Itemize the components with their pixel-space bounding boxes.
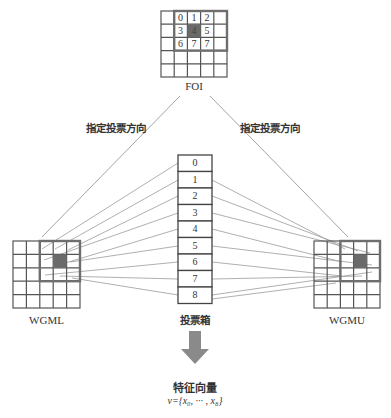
vote-box-label: 投票箱	[165, 312, 225, 327]
vote-bin-7: 7	[178, 271, 212, 288]
direction-label-right: 指定投票方向	[240, 120, 300, 135]
foi-value-2: 2	[201, 11, 214, 24]
wgml-center-cell	[53, 254, 66, 267]
vote-bin-4: 4	[178, 221, 212, 238]
direction-label-left: 指定投票方向	[86, 120, 146, 135]
vote-bin-6: 6	[178, 254, 212, 271]
wgmu-label: WGMU	[314, 314, 380, 326]
wgmu-grid	[314, 241, 380, 308]
down-arrow-icon	[181, 331, 209, 364]
foi-value-7: 7	[187, 37, 200, 50]
feature-vector-formula: v={x₀, ··· , x₈}	[150, 395, 240, 406]
foi-value-4: 4	[187, 24, 200, 37]
vote-bin-8: 8	[178, 287, 212, 304]
foi-label: FOI	[161, 80, 227, 92]
wgml-label: WGML	[13, 314, 80, 326]
direction-line-right	[210, 96, 348, 237]
vote-bin-0: 0	[178, 155, 212, 172]
foi-value-1: 1	[187, 11, 200, 24]
foi-value-5: 5	[201, 24, 214, 37]
foi-value-6: 6	[174, 37, 187, 50]
direction-line-left	[42, 96, 180, 237]
vote-bin-3: 3	[178, 205, 212, 222]
feature-vector-label: 特征向量	[160, 379, 230, 395]
vote-bin-1: 1	[178, 172, 212, 189]
vote-bin-5: 5	[178, 238, 212, 255]
foi-value-8: 7	[201, 37, 214, 50]
wgmu-center-cell	[354, 254, 367, 267]
wgml-vote-lines	[42, 163, 178, 295]
vote-bin-2: 2	[178, 188, 212, 205]
foi-value-3: 3	[174, 24, 187, 37]
foi-value-0: 0	[174, 11, 187, 24]
